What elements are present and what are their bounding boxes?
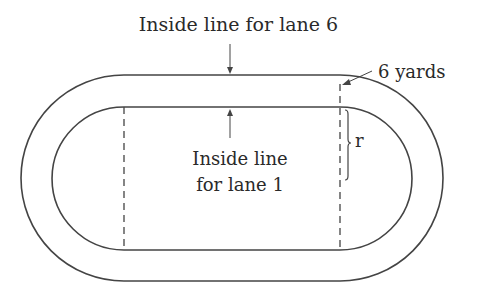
lane1-label-line2: for lane 1 [150,172,330,198]
lane1-label: Inside line for lane 1 [150,146,330,198]
lane1-arrow-head [227,109,233,116]
yards-arrow-head [342,79,351,85]
yards-label: 6 yards [378,61,445,82]
lane6-label: Inside line for lane 6 [0,13,477,35]
radius-label: r [355,130,364,151]
radius-brace [345,110,351,180]
lane6-arrow-head [227,67,233,74]
yards-arrow-shaft [346,71,372,83]
lane1-label-line1: Inside line [150,146,330,172]
